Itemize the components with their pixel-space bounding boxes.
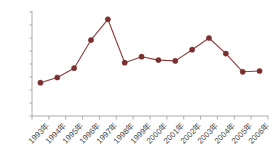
line-chart: 05001000150020002500300035004000 1993年19… <box>0 0 275 163</box>
x-axis-tick-labels: 1993年1994年1995年1996年1997年1998年1999年2000年… <box>0 0 275 163</box>
